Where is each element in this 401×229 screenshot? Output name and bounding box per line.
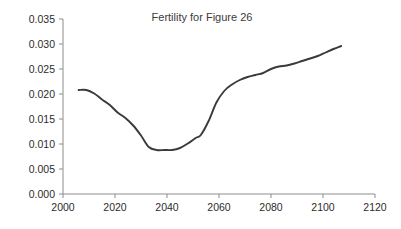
x-tick-group: 2000202020402060208021002120	[51, 194, 387, 213]
y-tick-label: 0.005	[29, 163, 55, 175]
x-tick-label: 2060	[207, 201, 231, 213]
y-tick-label: 0.015	[29, 113, 55, 125]
x-tick-label: 2120	[363, 201, 387, 213]
data-series-line	[79, 46, 342, 150]
y-tick-label: 0.000	[29, 188, 55, 200]
y-tick-label: 0.025	[29, 63, 55, 75]
chart-container: Fertility for Figure 26 0.0000.0050.0100…	[0, 0, 401, 229]
y-tick-label: 0.020	[29, 88, 55, 100]
x-axis: 2000202020402060208021002120	[51, 194, 387, 213]
fertility-line-chart: Fertility for Figure 26 0.0000.0050.0100…	[0, 0, 401, 229]
chart-title: Fertility for Figure 26	[152, 11, 253, 23]
y-tick-group: 0.0000.0050.0100.0150.0200.0250.0300.035	[29, 13, 63, 200]
y-tick-label: 0.030	[29, 38, 55, 50]
x-tick-label: 2100	[311, 201, 335, 213]
x-tick-label: 2020	[103, 201, 127, 213]
y-tick-label: 0.035	[29, 13, 55, 25]
y-axis: 0.0000.0050.0100.0150.0200.0250.0300.035	[29, 13, 63, 200]
y-tick-label: 0.010	[29, 138, 55, 150]
x-tick-label: 2040	[155, 201, 179, 213]
x-tick-label: 2080	[259, 201, 283, 213]
x-tick-label: 2000	[51, 201, 75, 213]
